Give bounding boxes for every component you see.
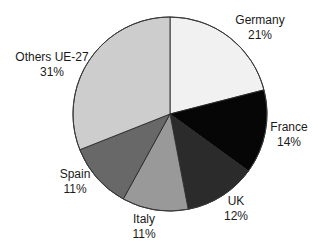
- pie-chart: Germany21%France14%UK12%Italy11%Spain11%…: [0, 0, 318, 250]
- pie-slices: [73, 17, 267, 211]
- label-pct-italy: 11%: [132, 227, 155, 241]
- label-pct-spain: 11%: [63, 182, 86, 196]
- label-pct-uk: 12%: [224, 209, 248, 223]
- label-name-spain: Spain: [60, 167, 91, 181]
- label-name-france: France: [270, 120, 308, 134]
- label-name-uk: UK: [228, 194, 245, 208]
- label-pct-others-ue-27: 31%: [40, 65, 64, 79]
- label-pct-germany: 21%: [248, 28, 272, 42]
- label-name-others-ue-27: Others UE-27: [15, 50, 89, 64]
- label-name-italy: Italy: [133, 212, 155, 226]
- label-pct-france: 14%: [277, 135, 301, 149]
- label-name-germany: Germany: [235, 13, 284, 27]
